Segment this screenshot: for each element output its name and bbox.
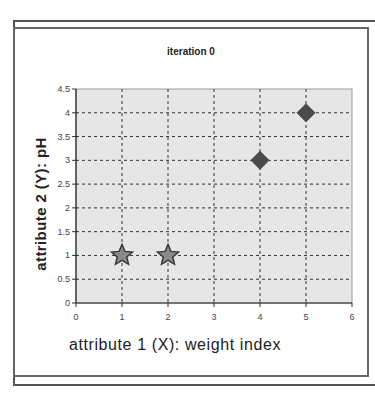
- x-tick-label: 2: [165, 312, 170, 322]
- y-tick-label: 2.5: [57, 179, 70, 189]
- x-tick-label: 4: [257, 312, 262, 322]
- y-tick-label: 3: [65, 155, 70, 165]
- x-tick-label: 3: [211, 312, 216, 322]
- y-tick-label: 3.5: [57, 132, 70, 142]
- y-tick-label: 4: [65, 108, 70, 118]
- x-tick-label: 0: [73, 312, 78, 322]
- y-tick-label: 4.5: [57, 84, 70, 94]
- y-tick-label: 0: [65, 298, 70, 308]
- chart-container: iteration 0 00.511.522.533.544.50123456 …: [13, 27, 369, 377]
- outer-frame-top: [13, 20, 375, 22]
- y-tick-label: 0.5: [57, 274, 70, 284]
- plot-area: 00.511.522.533.544.50123456: [15, 29, 367, 375]
- x-tick-label: 1: [119, 312, 124, 322]
- x-tick-label: 6: [349, 312, 354, 322]
- y-tick-label: 1.5: [57, 227, 70, 237]
- y-tick-label: 2: [65, 203, 70, 213]
- x-axis-label: attribute 1 (X): weight index: [15, 336, 335, 354]
- outer-frame-bottom: [13, 384, 375, 386]
- x-tick-label: 5: [303, 312, 308, 322]
- y-tick-label: 1: [65, 250, 70, 260]
